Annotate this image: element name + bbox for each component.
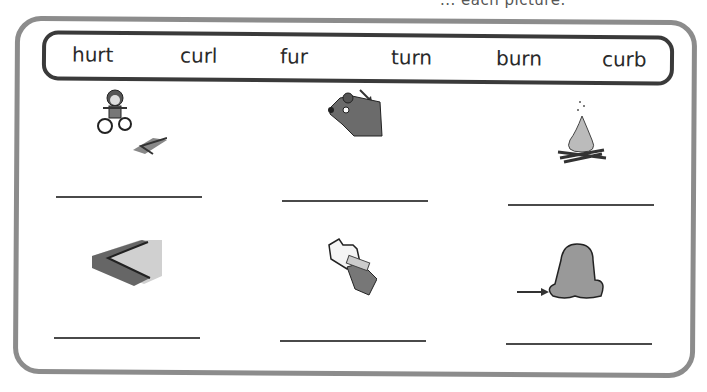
hair-curl-picture (515, 240, 615, 300)
hurt-hand-picture (325, 235, 377, 297)
word-curb: curb (602, 47, 647, 71)
word-turn: turn (391, 45, 432, 69)
word-bank: hurt curl fur turn burn curb (42, 30, 674, 86)
bear-fur-picture (326, 88, 386, 148)
answer-line-6[interactable] (506, 343, 652, 345)
instruction-text: ... each picture. (440, 0, 566, 9)
answer-line-2[interactable] (282, 200, 428, 202)
bike-curb-picture (95, 88, 167, 158)
word-hurt: hurt (72, 43, 114, 67)
word-curl: curl (180, 43, 218, 67)
campfire-picture (554, 96, 610, 166)
word-fur: fur (280, 44, 308, 68)
answer-line-1[interactable] (56, 196, 202, 198)
answer-line-5[interactable] (280, 340, 426, 342)
answer-line-4[interactable] (54, 337, 200, 339)
word-burn: burn (496, 46, 542, 70)
curb-picture (90, 240, 162, 286)
answer-line-3[interactable] (508, 204, 654, 206)
